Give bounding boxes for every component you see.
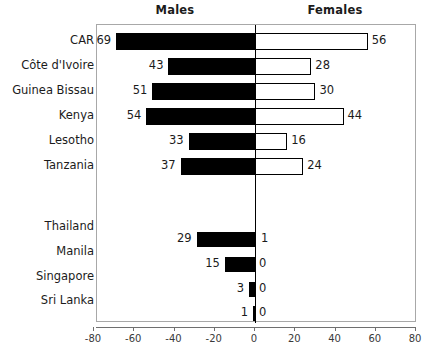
bar-female: [255, 83, 315, 100]
bar-value-female: 44: [348, 108, 363, 122]
bar-value-female: 56: [372, 33, 387, 47]
bar-female: [255, 58, 311, 75]
bar-male: [253, 306, 255, 321]
x-axis-line: [96, 327, 416, 328]
bar-value-female: 28: [315, 58, 330, 72]
column-header-females: Females: [254, 3, 416, 17]
bar-value-male: 54: [101, 108, 141, 122]
x-axis-tick-label: 0: [234, 333, 274, 344]
x-axis-tick: [214, 327, 215, 331]
bar-value-female: 24: [307, 158, 322, 172]
bar-value-male: 69: [71, 33, 111, 47]
bar-female: [255, 133, 287, 150]
category-label: Thailand: [0, 219, 94, 233]
category-label: Singapore: [0, 269, 94, 283]
category-label: Manila: [0, 244, 94, 258]
x-axis-tick: [415, 327, 416, 331]
bar-value-male: 51: [107, 83, 147, 97]
chart-container: Males Females CARCôte d'IvoireGuinea Bis…: [0, 0, 430, 362]
bar-male: [168, 58, 255, 75]
x-axis-tick-label: -40: [154, 333, 194, 344]
category-label: Lesotho: [0, 133, 94, 147]
bar-value-female: 16: [291, 133, 306, 147]
bar-male: [189, 133, 255, 150]
category-label: Guinea Bissau: [0, 83, 94, 97]
bar-value-female: 0: [259, 305, 266, 319]
bar-male: [116, 33, 255, 50]
bar-male: [152, 83, 255, 100]
bar-female: [255, 108, 344, 125]
bar-value-male: 3: [204, 281, 244, 295]
x-axis-tick-label: 20: [274, 333, 314, 344]
x-axis-tick-label: -20: [194, 333, 234, 344]
bar-value-male: 29: [152, 231, 192, 245]
bar-value-male: 1: [208, 305, 248, 319]
bar-male: [197, 232, 255, 247]
category-label: Kenya: [0, 108, 94, 122]
x-axis-tick: [254, 327, 255, 331]
bar-value-female: 0: [259, 281, 266, 295]
x-axis-tick-label: -80: [73, 333, 113, 344]
category-label: Côte d'Ivoire: [0, 58, 94, 72]
x-axis-tick: [375, 327, 376, 331]
category-label: Sri Lanka: [0, 293, 94, 307]
bar-value-male: 37: [136, 158, 176, 172]
bar-value-male: 33: [144, 133, 184, 147]
x-axis-tick-label: -60: [113, 333, 153, 344]
bar-value-female: 30: [319, 83, 334, 97]
x-axis-tick-label: 60: [355, 333, 395, 344]
bar-value-male: 43: [123, 58, 163, 72]
column-header-males: Males: [96, 3, 254, 17]
bar-female: [255, 158, 303, 175]
bar-male: [146, 108, 255, 125]
bar-value-female: 1: [261, 231, 268, 245]
bar-value-female: 0: [259, 256, 266, 270]
bar-female: [255, 33, 368, 50]
bar-male: [225, 257, 255, 272]
x-axis-tick: [294, 327, 295, 331]
x-axis-tick: [335, 327, 336, 331]
category-label: Tanzania: [0, 158, 94, 172]
bar-male: [181, 158, 255, 175]
x-axis-tick-label: 80: [395, 333, 430, 344]
bar-male: [249, 282, 255, 297]
x-axis-tick: [174, 327, 175, 331]
bar-value-male: 15: [180, 256, 220, 270]
x-axis-tick-label: 40: [315, 333, 355, 344]
x-axis-tick: [93, 327, 94, 331]
x-axis-tick: [133, 327, 134, 331]
